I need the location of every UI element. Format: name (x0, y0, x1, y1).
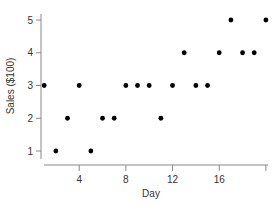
data-point (53, 149, 58, 154)
data-point (100, 116, 105, 121)
data-point (170, 83, 175, 88)
y-tick-label: 1 (27, 146, 33, 157)
data-point (158, 116, 163, 121)
x-axis-label: Day (142, 188, 160, 199)
data-point (42, 83, 47, 88)
y-tick-label: 4 (27, 47, 33, 58)
data-point (123, 83, 128, 88)
data-point (77, 83, 82, 88)
data-point (193, 83, 198, 88)
data-point (182, 50, 187, 55)
data-points (42, 18, 269, 154)
data-point (112, 116, 117, 121)
data-point (135, 83, 140, 88)
data-point (147, 83, 152, 88)
y-axis: 12345 (27, 14, 41, 159)
data-point (88, 149, 93, 154)
data-point (228, 18, 233, 23)
x-tick-label: 16 (214, 174, 226, 185)
data-point (252, 50, 257, 55)
x-tick-label: 12 (167, 174, 179, 185)
x-axis: 481216 (44, 165, 268, 185)
data-point (217, 50, 222, 55)
data-point (240, 50, 245, 55)
data-point (205, 83, 210, 88)
y-tick-label: 5 (27, 15, 33, 26)
scatter-chart: 12345 481216 Sales ($100) Day (0, 0, 277, 207)
y-tick-label: 3 (27, 80, 33, 91)
data-point (65, 116, 70, 121)
y-axis-label: Sales ($100) (5, 58, 16, 115)
x-tick-label: 4 (76, 174, 82, 185)
data-point (264, 18, 269, 23)
y-tick-label: 2 (27, 113, 33, 124)
x-tick-label: 8 (123, 174, 129, 185)
